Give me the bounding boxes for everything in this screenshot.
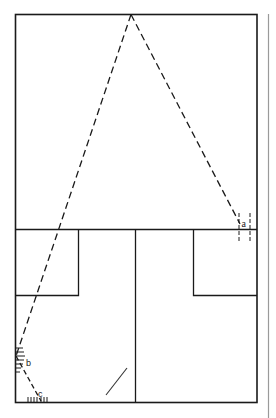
left-inner-box <box>16 230 79 296</box>
diagram-canvas: a b c <box>0 0 276 418</box>
label-a: a <box>242 218 247 229</box>
dashed-ray-right <box>131 15 240 225</box>
label-b: b <box>26 358 31 368</box>
outer-frame <box>16 15 258 403</box>
short-slash-line <box>106 368 127 395</box>
right-inner-box <box>194 230 258 296</box>
hatch-b <box>16 348 25 372</box>
label-c: c <box>38 389 43 399</box>
dashed-ray-left <box>16 15 131 357</box>
